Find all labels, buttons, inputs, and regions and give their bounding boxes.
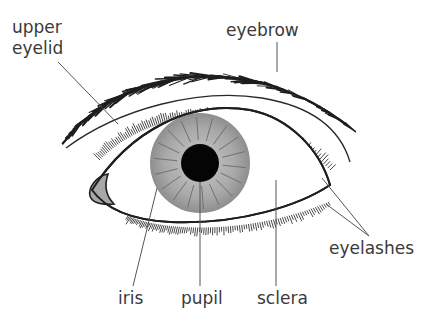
label-eyebrow: eyebrow bbox=[226, 20, 299, 41]
label-upper-eyelid-line2: eyelid bbox=[12, 38, 63, 59]
leader-upper-eyelid bbox=[58, 62, 118, 124]
label-upper-eyelid-line1: upper bbox=[12, 17, 63, 38]
label-iris: iris bbox=[118, 288, 143, 309]
pupil bbox=[181, 144, 219, 182]
label-upper-eyelid: upper eyelid bbox=[12, 17, 63, 59]
label-eyelashes: eyelashes bbox=[329, 238, 414, 259]
label-sclera: sclera bbox=[257, 288, 308, 309]
leader-eyelashes-1 bbox=[322, 178, 369, 236]
label-pupil: pupil bbox=[181, 288, 223, 309]
eye-diagram bbox=[0, 0, 429, 325]
